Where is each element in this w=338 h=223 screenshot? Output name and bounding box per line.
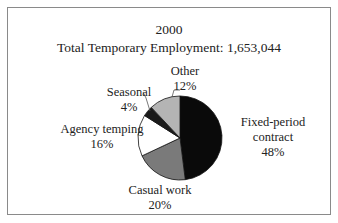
- label-agency-pct: 16%: [52, 137, 152, 152]
- label-seasonal-name: Seasonal: [94, 85, 164, 100]
- label-other: Other 12%: [163, 64, 207, 94]
- label-casual-pct: 20%: [110, 198, 210, 213]
- label-seasonal-pct: 4%: [94, 100, 164, 115]
- label-casual-name: Casual work: [110, 183, 210, 198]
- label-fixed-name1: Fixed-period: [238, 115, 308, 130]
- pie-slice-fixed-period-contract: [180, 96, 222, 180]
- label-fixed-period: Fixed-period contract 48%: [238, 115, 308, 160]
- label-agency-name: Agency temping: [52, 122, 152, 137]
- label-agency-temping: Agency temping 16%: [52, 122, 152, 152]
- label-seasonal: Seasonal 4%: [94, 85, 164, 115]
- label-other-pct: 12%: [163, 79, 207, 94]
- label-casual-work: Casual work 20%: [110, 183, 210, 213]
- label-fixed-name2: contract: [238, 130, 308, 145]
- label-fixed-pct: 48%: [238, 145, 308, 160]
- label-other-name: Other: [163, 64, 207, 79]
